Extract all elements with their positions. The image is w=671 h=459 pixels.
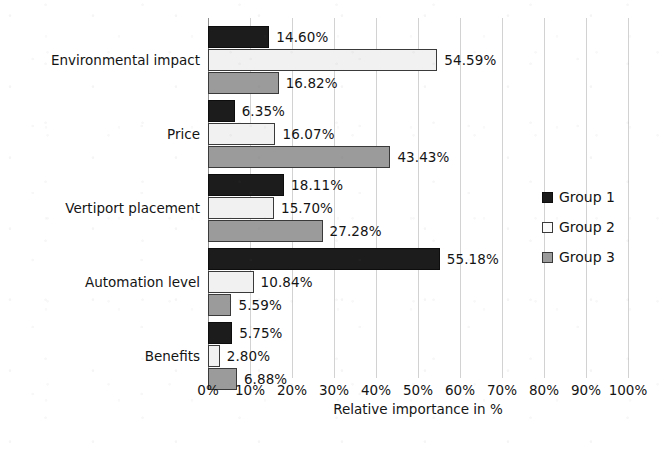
bar-value-label: 55.18% xyxy=(447,249,499,269)
legend-label: Group 2 xyxy=(559,219,615,235)
x-tick-label: 50% xyxy=(403,381,433,399)
category-label: Price xyxy=(8,126,200,142)
gray-square-icon xyxy=(542,252,553,263)
bar[interactable] xyxy=(208,26,269,48)
bar[interactable] xyxy=(208,49,437,71)
bar[interactable] xyxy=(208,322,232,344)
legend-item[interactable]: Group 1 xyxy=(542,182,652,212)
bar[interactable] xyxy=(208,174,284,196)
bar[interactable] xyxy=(208,72,279,94)
bar-value-label: 14.60% xyxy=(276,27,328,47)
category-label: Environmental impact xyxy=(8,52,200,68)
legend-item[interactable]: Group 2 xyxy=(542,212,652,242)
x-tick-label: 80% xyxy=(529,381,559,399)
bar-group: 6.35%16.07%43.43%Price xyxy=(208,100,628,168)
bar[interactable] xyxy=(208,146,390,168)
bar[interactable] xyxy=(208,197,274,219)
bar-group: 5.75%2.80%6.88%Benefits xyxy=(208,322,628,390)
bar-value-label: 43.43% xyxy=(397,147,449,167)
white-square-icon xyxy=(542,222,553,233)
bar-value-label: 2.80% xyxy=(227,346,270,366)
x-tick-label: 40% xyxy=(361,381,391,399)
bar-value-label: 5.59% xyxy=(238,295,281,315)
bar-value-label: 16.07% xyxy=(282,124,334,144)
category-label: Vertiport placement xyxy=(8,200,200,216)
x-tick-label: 0% xyxy=(197,381,218,399)
bar[interactable] xyxy=(208,271,254,293)
x-tick-label: 10% xyxy=(235,381,265,399)
bar-value-label: 5.75% xyxy=(239,323,282,343)
x-tick-label: 70% xyxy=(487,381,517,399)
legend-item[interactable]: Group 3 xyxy=(542,242,652,272)
x-tick-label: 100% xyxy=(609,381,648,399)
bar-value-label: 54.59% xyxy=(444,50,496,70)
category-label: Benefits xyxy=(8,348,200,364)
bar-value-label: 18.11% xyxy=(291,175,343,195)
x-axis-ticks: 0%10%20%30%40%50%60%70%80%90%100% xyxy=(208,381,628,403)
chart-legend: Group 1Group 2Group 3 xyxy=(542,182,652,272)
bar-chart: 14.60%54.59%16.82%Environmental impact6.… xyxy=(0,0,671,459)
bar[interactable] xyxy=(208,123,275,145)
bar[interactable] xyxy=(208,345,220,367)
x-tick-label: 20% xyxy=(277,381,307,399)
category-label: Automation level xyxy=(8,274,200,290)
bar[interactable] xyxy=(208,100,235,122)
bar-group: 14.60%54.59%16.82%Environmental impact xyxy=(208,26,628,94)
black-square-icon xyxy=(542,192,553,203)
bar-value-label: 6.35% xyxy=(242,101,285,121)
x-tick-label: 30% xyxy=(319,381,349,399)
bar[interactable] xyxy=(208,248,440,270)
x-axis-title: Relative importance in % xyxy=(208,401,628,417)
bar-value-label: 16.82% xyxy=(286,73,338,93)
bar-value-label: 10.84% xyxy=(261,272,313,292)
bar[interactable] xyxy=(208,294,231,316)
bar-value-label: 15.70% xyxy=(281,198,333,218)
x-tick-label: 60% xyxy=(445,381,475,399)
x-tick-label: 90% xyxy=(571,381,601,399)
bar-value-label: 27.28% xyxy=(330,221,382,241)
legend-label: Group 1 xyxy=(559,189,615,205)
bar[interactable] xyxy=(208,220,323,242)
legend-label: Group 3 xyxy=(559,249,615,265)
